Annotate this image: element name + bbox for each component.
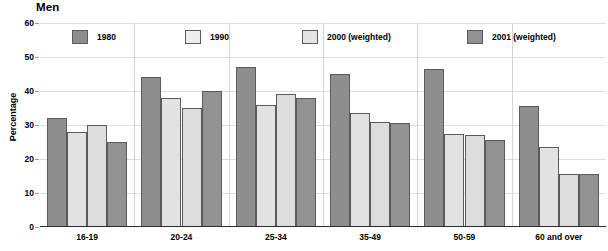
x-tick-label: 25-34 — [229, 232, 323, 242]
y-tick-label: 0 — [16, 223, 34, 232]
bar — [182, 108, 202, 227]
bar — [107, 142, 127, 227]
y-tick-label: 40 — [16, 87, 34, 96]
x-tick-label: 20-24 — [134, 232, 228, 242]
y-tick-mark — [35, 57, 39, 58]
bar — [370, 122, 390, 227]
y-tick-mark — [35, 23, 39, 24]
bar — [87, 125, 107, 227]
bar — [141, 77, 161, 227]
y-tick-label: 30 — [16, 121, 34, 130]
bar — [444, 134, 464, 228]
chart-title: Men — [36, 0, 59, 14]
y-tick-label: 10 — [16, 189, 34, 198]
bar — [296, 98, 316, 227]
bar — [47, 118, 67, 227]
bar — [350, 113, 370, 227]
y-tick-label: 20 — [16, 155, 34, 164]
bar — [559, 174, 579, 227]
y-tick-mark — [35, 193, 39, 194]
bars-layer — [40, 23, 606, 227]
x-axis-line — [40, 226, 606, 228]
x-tick-label: 35-49 — [323, 232, 417, 242]
y-tick-mark — [35, 227, 39, 228]
bar — [519, 106, 539, 227]
bar — [276, 94, 296, 227]
bar — [465, 135, 485, 227]
plot-area — [40, 23, 606, 227]
x-tick-label: 60 and over — [512, 232, 606, 242]
bar — [485, 140, 505, 227]
bar — [161, 98, 181, 227]
y-tick-mark — [35, 159, 39, 160]
bar — [202, 91, 222, 227]
bar — [579, 174, 599, 227]
x-tick-label: 50-59 — [417, 232, 511, 242]
y-tick-mark — [35, 91, 39, 92]
y-tick-mark — [35, 125, 39, 126]
bar — [539, 147, 559, 227]
y-tick-label: 60 — [16, 19, 34, 28]
bar — [256, 105, 276, 227]
bar — [236, 67, 256, 227]
bar — [330, 74, 350, 227]
x-tick-label: 16-19 — [40, 232, 134, 242]
y-tick-label: 50 — [16, 53, 34, 62]
bar — [67, 132, 87, 227]
bar — [390, 123, 410, 227]
bar-chart: Men Percentage 0102030405060 19801990200… — [0, 0, 608, 251]
bar — [424, 69, 444, 227]
